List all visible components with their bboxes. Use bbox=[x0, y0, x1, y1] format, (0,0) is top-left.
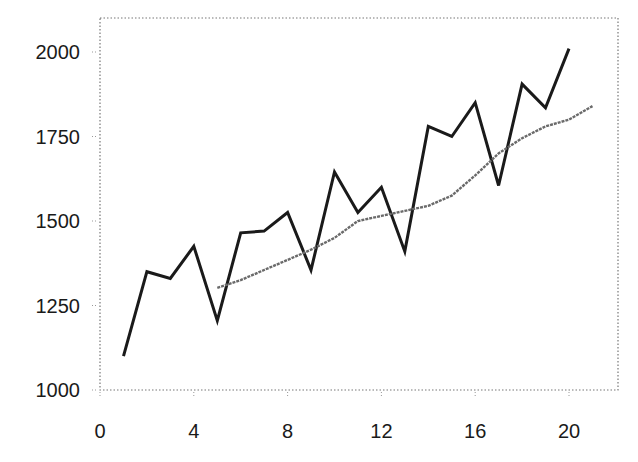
x-tick-label: 8 bbox=[282, 420, 293, 442]
trend-series-line bbox=[217, 106, 592, 288]
observed-series-line bbox=[124, 49, 570, 357]
x-tick-label: 0 bbox=[94, 420, 105, 442]
x-tick-label: 20 bbox=[558, 420, 580, 442]
y-tick-label: 2000 bbox=[36, 41, 81, 63]
y-tick-label: 1500 bbox=[36, 210, 81, 232]
axis-ticks bbox=[92, 52, 569, 397]
plot-frame bbox=[100, 18, 618, 390]
line-chart: 10001250150017502000 048121620 bbox=[0, 0, 638, 462]
x-tick-label: 16 bbox=[464, 420, 486, 442]
x-tick-label: 12 bbox=[370, 420, 392, 442]
y-tick-label: 1250 bbox=[36, 295, 81, 317]
y-tick-label: 1750 bbox=[36, 126, 81, 148]
chart-canvas: 10001250150017502000 048121620 bbox=[0, 0, 638, 462]
x-axis-tick-labels: 048121620 bbox=[94, 420, 580, 442]
y-axis-tick-labels: 10001250150017502000 bbox=[36, 41, 81, 401]
plot-border bbox=[100, 18, 618, 390]
data-series bbox=[124, 49, 593, 357]
x-tick-label: 4 bbox=[188, 420, 199, 442]
y-tick-label: 1000 bbox=[36, 379, 81, 401]
